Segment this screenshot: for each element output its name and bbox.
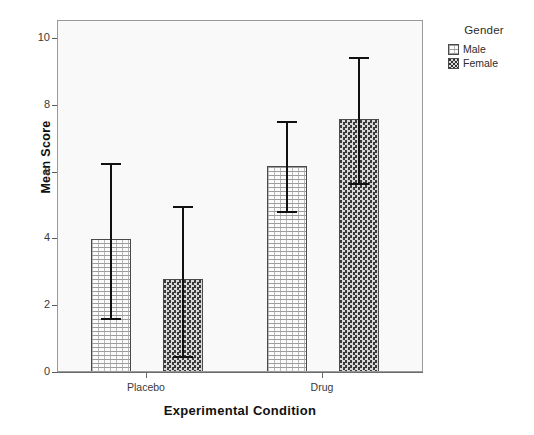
bar-chart: Mean Score 0246810 PlaceboDrug Experimen… (0, 0, 534, 435)
x-tick-label-drug: Drug (282, 381, 362, 393)
error-bar-cap-lower (349, 183, 369, 185)
error-bar-stem (286, 121, 288, 211)
legend-title: Gender (438, 24, 530, 36)
y-tick-label: 0 (20, 365, 50, 377)
error-bar-cap-upper (277, 121, 297, 123)
error-bar-cap-upper (173, 206, 193, 208)
error-bar-stem (110, 163, 112, 318)
legend-item-male[interactable]: Male (448, 43, 530, 55)
plot-area (57, 20, 423, 372)
error-bar-cap-upper (349, 57, 369, 59)
legend-swatch-female-icon (448, 58, 459, 69)
y-tick-label: 8 (20, 98, 50, 110)
error-bar-cap-lower (277, 211, 297, 213)
error-bar-cap-lower (101, 318, 121, 320)
y-tick-label: 6 (20, 165, 50, 177)
legend: Gender Male Female (438, 24, 530, 71)
error-bar-cap-upper (101, 163, 121, 165)
error-bar-stem (182, 206, 184, 356)
y-tick-label: 10 (20, 31, 50, 43)
x-axis-title: Experimental Condition (0, 403, 480, 418)
x-tick-label-placebo: Placebo (106, 381, 186, 393)
x-axis-line (57, 372, 423, 373)
error-bar-stem (358, 57, 360, 182)
x-tick-mark (322, 372, 323, 378)
y-tick-label: 2 (20, 298, 50, 310)
error-bar-cap-lower (173, 356, 193, 358)
legend-label-female: Female (463, 57, 498, 69)
legend-swatch-male-icon (448, 44, 459, 55)
legend-item-female[interactable]: Female (448, 57, 530, 69)
legend-label-male: Male (463, 43, 486, 55)
x-tick-mark (146, 372, 147, 378)
y-tick-label: 4 (20, 231, 50, 243)
